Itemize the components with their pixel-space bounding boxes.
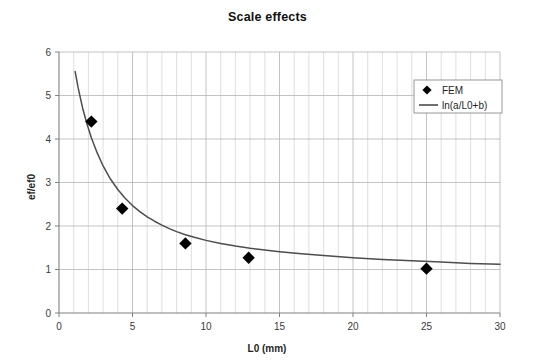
y-tick-label: 3 [45, 177, 51, 188]
x-tick-label: 20 [347, 321, 359, 332]
x-tick-label: 30 [494, 321, 506, 332]
y-tick-label: 1 [45, 264, 51, 275]
y-tick-label: 5 [45, 90, 51, 101]
x-tick-label: 0 [56, 321, 62, 332]
y-tick-label: 6 [45, 47, 51, 58]
y-tick-label: 0 [45, 308, 51, 319]
y-tick-label: 2 [45, 221, 51, 232]
y-tick-label: 4 [45, 134, 51, 145]
data-point-marker [420, 262, 432, 274]
chart-figure: Scale effects 051015202530 0123456 FEMln… [0, 0, 535, 364]
x-tick-label: 5 [130, 321, 136, 332]
y-axis-title: ef/ef0 [26, 174, 37, 201]
x-tick-label: 15 [274, 321, 286, 332]
data-point-marker [242, 252, 254, 264]
legend-label: FEM [442, 85, 463, 96]
x-tick-labels: 051015202530 [56, 321, 506, 332]
data-point-marker [179, 237, 191, 249]
chart-legend: FEMln(a/L0+b) [414, 80, 502, 113]
x-axis-title: L0 (mm) [248, 343, 287, 354]
legend-label: ln(a/L0+b) [442, 100, 487, 111]
plot-area: 051015202530 0123456 FEMln(a/L0+b) L0 (m… [0, 0, 535, 364]
y-tick-labels: 0123456 [45, 47, 51, 319]
x-tick-label: 25 [421, 321, 433, 332]
x-tick-label: 10 [200, 321, 212, 332]
